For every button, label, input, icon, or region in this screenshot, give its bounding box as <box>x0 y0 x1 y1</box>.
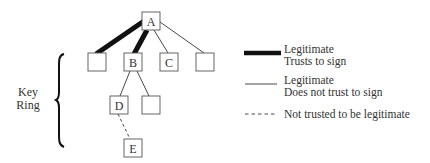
key-ring-brace-icon <box>56 54 64 147</box>
node-e: E <box>124 139 142 157</box>
legend-thick-line1: Legitimate <box>284 43 346 55</box>
svg-text:C: C <box>165 56 173 70</box>
svg-text:D: D <box>115 99 124 113</box>
node-unlabeled-6 <box>142 96 160 114</box>
node-c: C <box>160 53 178 71</box>
edge-b-d-thin <box>120 71 130 96</box>
edge-d-e-dashed <box>118 114 130 139</box>
node-a: A <box>142 12 160 30</box>
svg-text:E: E <box>129 142 136 156</box>
legend-item-dashed: Not trusted to be legitimate <box>284 108 410 120</box>
legend-item-thick: Legitimate Trusts to sign <box>284 43 346 67</box>
legend-swatches <box>244 53 281 114</box>
tree-nodes: A B C D E <box>88 12 214 157</box>
key-ring-label-line2: Ring <box>14 99 42 112</box>
node-unlabeled-4 <box>196 53 214 71</box>
node-b: B <box>124 53 142 71</box>
svg-text:B: B <box>129 56 137 70</box>
legend-thick-line2: Trusts to sign <box>284 55 346 67</box>
node-unlabeled-1 <box>88 53 106 71</box>
node-d: D <box>110 96 128 114</box>
tree-edges <box>96 21 204 139</box>
legend-dashed-line1: Not trusted to be legitimate <box>284 108 410 120</box>
edge-a-right-thin <box>160 22 204 53</box>
edge-a-c-thin <box>154 30 168 53</box>
legend-thin-line2: Does not trust to sign <box>284 86 382 98</box>
edge-b-right-thin <box>137 71 149 96</box>
edge-a-b-thick <box>134 30 147 54</box>
legend-thin-line1: Legitimate <box>284 74 382 86</box>
key-ring-label: Key Ring <box>14 86 42 112</box>
svg-text:A: A <box>147 15 156 29</box>
legend-item-thin: Legitimate Does not trust to sign <box>284 74 382 98</box>
